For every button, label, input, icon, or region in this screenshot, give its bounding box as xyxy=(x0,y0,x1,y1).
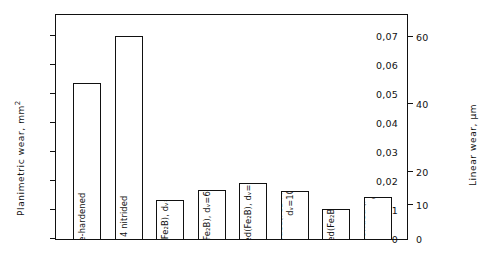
bar-c45-borided-fe2b-64: C 45 borided(Fe₂B), dᵥ=64µm xyxy=(198,190,226,239)
right-tick-label-2: 20 xyxy=(416,167,429,178)
bar-c45-case-hardened: C 45 case-hardened xyxy=(73,83,101,239)
bar-series: C 45 case-hardened42 CrMo 4 nitridedC 45… xyxy=(56,15,407,239)
chart-figure: Planimetric wear, mm2 Linear wear, µm 00… xyxy=(0,0,481,259)
bar-label-6: X 20 Cr 13 borided(Fe₂B), dᵥ=40µm xyxy=(326,209,337,239)
right-tick-label-0: 0 xyxy=(416,234,422,245)
right-tick-3 xyxy=(407,103,413,104)
right-tick-label-4: 60 xyxy=(416,32,429,43)
bar-42crmo4-nitrided: 42 CrMo 4 nitrided xyxy=(115,36,143,239)
bar-label-5: 42 CrMo 4 borided(FeB+Fe₂B),dᵥ=101µm xyxy=(281,191,295,239)
left-axis-title: Planimetric wear, mm2 xyxy=(14,100,26,216)
right-tick-2 xyxy=(407,171,413,172)
bar-label-0: C 45 case-hardened xyxy=(77,192,88,239)
bar-label-4: 42 CrMo 4 borided(Fe₂B), dᵥ=56µm xyxy=(243,183,254,240)
bar-42crmo4-borided-feb-fe2b-101: 42 CrMo 4 borided(FeB+Fe₂B),dᵥ=101µm xyxy=(281,191,309,239)
bar-label-2: C 45 borided (Fe₂B), dᵥ=36µm xyxy=(160,200,171,239)
right-tick-label-1: 10 xyxy=(416,200,429,211)
right-tick-4 xyxy=(407,36,413,37)
bar-42crmo4-borided-fe2b-56: 42 CrMo 4 borided(Fe₂B), dᵥ=56µm xyxy=(239,183,267,240)
left-axis-title-superscript: 2 xyxy=(14,100,22,105)
bar-label-7: X 38 CrMoV 5.1 borided (FeB+Fe₂B)dᵥ=55µm xyxy=(364,197,378,239)
bar-x38crmov51-borided-feb-fe2b-55: X 38 CrMoV 5.1 borided (FeB+Fe₂B)dᵥ=55µm xyxy=(364,197,392,239)
bar-c45-borided-fe2b-36: C 45 borided (Fe₂B), dᵥ=36µm xyxy=(156,200,184,239)
right-tick-1 xyxy=(407,204,413,205)
right-axis-title: Linear wear, µm xyxy=(468,104,478,186)
right-tick-label-3: 40 xyxy=(416,99,429,110)
bar-x20cr13-borided-fe2b-40: X 20 Cr 13 borided(Fe₂B), dᵥ=40µm xyxy=(322,209,350,239)
plot-area: 00,010,020,030,040,050,060,07 010204060 … xyxy=(55,14,408,240)
bar-label-1: 42 CrMo 4 nitrided xyxy=(118,195,129,239)
left-axis-title-text: Planimetric wear, mm xyxy=(16,105,26,216)
bar-label-3: C 45 borided(Fe₂B), dᵥ=64µm xyxy=(201,190,212,239)
